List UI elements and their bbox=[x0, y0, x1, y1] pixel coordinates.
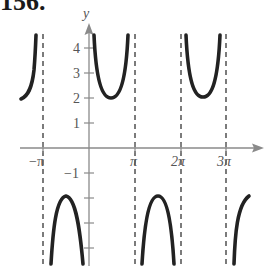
y-tick-label: 3 bbox=[73, 66, 80, 81]
x-tick-label: −π bbox=[29, 154, 44, 169]
x-tick-label: π bbox=[130, 154, 138, 169]
curve-branch-up-2 bbox=[186, 35, 220, 97]
y-tick-label: 1 bbox=[73, 116, 80, 131]
curve-branch-down-2 bbox=[142, 196, 174, 264]
y-tick-label: −1 bbox=[64, 166, 79, 181]
curve-branch-left bbox=[21, 35, 36, 99]
graph: y −π π 2π 3π 4 3 2 1 −1 bbox=[0, 0, 269, 266]
curve-branch-down-1 bbox=[51, 196, 83, 264]
y-tick-label: 2 bbox=[73, 91, 80, 106]
curve-branch-up-1 bbox=[94, 35, 128, 98]
y-tick-label: 4 bbox=[73, 41, 80, 56]
x-tick-label: 3π bbox=[216, 154, 232, 169]
y-axis-label: y bbox=[81, 6, 90, 21]
x-tick-label: 2π bbox=[171, 154, 186, 169]
curve-branch-right bbox=[234, 196, 249, 264]
